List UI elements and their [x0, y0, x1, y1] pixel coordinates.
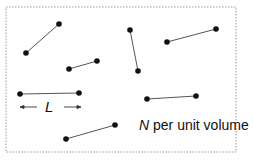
dumbbell-rod	[167, 29, 216, 42]
dumbbell-ball	[23, 50, 29, 56]
dumbbell-ball	[63, 136, 69, 142]
density-label: N per unit volume	[139, 117, 249, 133]
dumbbell-rod	[130, 30, 138, 71]
dumbbell-rod	[20, 93, 79, 94]
dumbbell-diagram: L N per unit volume	[0, 0, 253, 166]
dumbbell	[66, 58, 100, 72]
dumbbell-ball	[144, 96, 150, 102]
length-label: L	[45, 98, 53, 115]
dumbbell	[164, 26, 219, 45]
dumbbell-ball	[213, 26, 219, 32]
dumbbell-ball	[94, 58, 100, 64]
dumbbell-ball	[127, 27, 133, 33]
dumbbell-rod	[66, 125, 115, 139]
dumbbell-ball	[66, 66, 72, 72]
dumbbell-ball	[76, 90, 82, 96]
dumbbell	[23, 21, 62, 56]
right-arrow-head	[77, 106, 81, 109]
dumbbell-rod	[69, 61, 97, 69]
dumbbell-ball	[56, 21, 62, 27]
dumbbell	[63, 122, 118, 142]
dumbbell-ball	[135, 68, 141, 74]
left-arrow-head	[20, 106, 24, 109]
dumbbell-ball	[193, 93, 199, 99]
dumbbell-ball	[17, 91, 23, 97]
dumbbell-rod	[26, 24, 59, 53]
dumbbell	[127, 27, 141, 74]
density-text: per unit volume	[149, 117, 249, 133]
dumbbell	[144, 93, 199, 102]
dumbbell-ball	[112, 122, 118, 128]
dumbbell	[17, 90, 82, 97]
dumbbell-rod	[147, 96, 196, 99]
dumbbell-ball	[164, 39, 170, 45]
